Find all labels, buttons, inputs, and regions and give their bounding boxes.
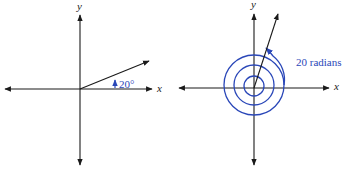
diagram-canvas — [0, 0, 343, 180]
right-x-label: x — [334, 80, 339, 92]
right-y-label: y — [251, 0, 256, 10]
left-x-label: x — [157, 82, 162, 94]
right-angle-label: 20 radians — [296, 56, 342, 68]
right-angle-arc — [266, 48, 284, 85]
left-axes — [5, 15, 152, 165]
left-angle-label: 20° — [119, 78, 134, 90]
left-y-label: y — [77, 0, 82, 12]
right-terminal-ray — [254, 14, 278, 88]
right-axes — [179, 14, 329, 165]
